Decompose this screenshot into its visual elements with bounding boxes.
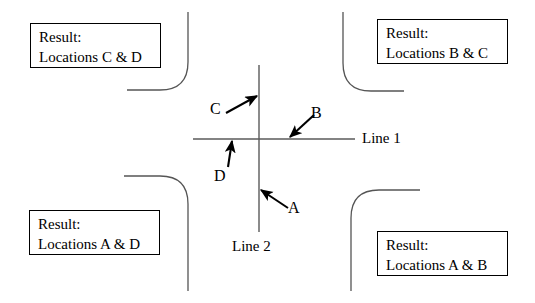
result-box-locations: Locations C & D: [39, 48, 152, 68]
result-box-locations: Locations B & C: [386, 44, 499, 64]
diagram-canvas: Line 1 Line 2 A B C D Result: Locations …: [0, 0, 535, 303]
result-box-heading: Result:: [39, 28, 152, 48]
approach-arrows: [226, 96, 314, 208]
result-box-top-right: Result: Locations B & C: [377, 19, 508, 64]
line-1-label: Line 1: [362, 130, 401, 147]
result-box-locations: Locations A & B: [386, 256, 499, 276]
arrow-d-shaft: [228, 141, 232, 167]
result-box-top-left: Result: Locations C & D: [30, 23, 161, 68]
result-box-bottom-left: Result: Locations A & D: [29, 210, 160, 255]
corner-curves: [124, 12, 420, 291]
arrow-label-c: C: [210, 100, 221, 118]
result-box-heading: Result:: [386, 236, 499, 256]
arrow-a-shaft: [261, 190, 288, 208]
arrow-label-a: A: [288, 199, 300, 217]
result-box-locations: Locations A & D: [38, 235, 151, 255]
result-box-heading: Result:: [38, 215, 151, 235]
arrow-c-shaft: [226, 96, 257, 113]
line-2-label: Line 2: [232, 238, 271, 255]
arrow-label-b: B: [311, 104, 322, 122]
arrow-label-d: D: [214, 167, 226, 185]
result-box-bottom-right: Result: Locations A & B: [377, 231, 508, 276]
result-box-heading: Result:: [386, 24, 499, 44]
axis-lines: [193, 65, 355, 232]
